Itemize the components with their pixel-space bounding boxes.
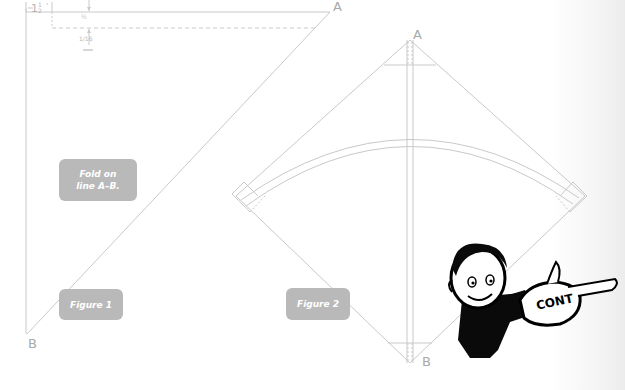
figure-2-point-b-label: B: [422, 354, 431, 369]
figure-1-caption-text: Figure 1: [70, 300, 112, 310]
svg-text:½: ½: [81, 13, 87, 20]
mascot-illustration: [449, 244, 617, 359]
figure-1-point-b-label: B: [28, 336, 37, 351]
figure-1-dimension-text: 1 1 2 " ½ 1/16: [31, 1, 93, 42]
svg-text:2: 2: [38, 7, 42, 14]
figure-2-caption: Figure 2: [286, 288, 350, 320]
figure-2-caption-text: Figure 2: [297, 299, 339, 309]
svg-text:": ": [46, 2, 48, 8]
figure-2-point-a-label: A: [413, 27, 422, 42]
svg-text:1: 1: [31, 2, 38, 15]
svg-text:1/16: 1/16: [79, 35, 93, 42]
fold-instruction-note: Fold on line A–B.: [59, 159, 137, 201]
fold-instruction-text: Fold on line A–B.: [72, 168, 124, 192]
figure-1-caption: Figure 1: [59, 289, 123, 320]
figure-1-point-a-label: A: [333, 0, 342, 14]
